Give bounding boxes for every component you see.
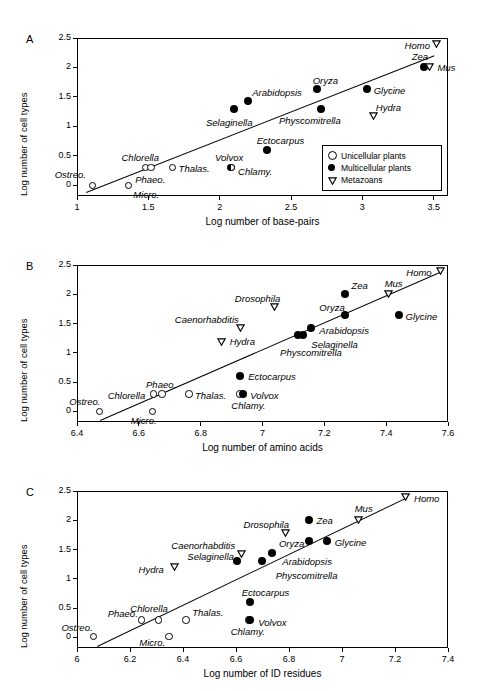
data-point-selaginella (233, 557, 241, 565)
data-point-hydra (217, 338, 226, 346)
x-tick-label: 6.4 (61, 428, 93, 438)
point-label-physcomitrella: Physcomitrella (276, 570, 338, 581)
data-point-oryza (313, 85, 321, 93)
y-axis-label-B: Log number of cell types (18, 318, 29, 422)
x-tickmark (289, 648, 290, 652)
data-point-zea (305, 516, 313, 524)
data-point-volvox (227, 164, 235, 172)
point-label-homo: Homo (405, 40, 430, 51)
x-tick-label: 7 (247, 428, 279, 438)
data-point-oryza (305, 537, 313, 545)
point-label-oryza: Oryza (319, 302, 344, 313)
x-tick-label: 1.5 (132, 202, 164, 212)
y-tickmark (73, 578, 77, 579)
x-tick-label: 6.4 (167, 654, 199, 664)
x-tickmark (77, 196, 78, 200)
point-label-arabidopsis: Arabidopsis (252, 87, 302, 98)
data-point-hydra (369, 112, 378, 120)
y-tickmark (73, 352, 77, 353)
y-tick-label: 1.5 (47, 91, 71, 101)
x-tickmark (200, 422, 201, 426)
x-tickmark (77, 422, 78, 426)
data-point-chlamy (227, 164, 235, 172)
data-point-hydra (170, 563, 179, 571)
point-label-caenorhabditis: Caenorhabditis (171, 540, 235, 551)
data-point-ectocarpus (263, 146, 271, 154)
data-point-caenorhabditis (237, 550, 246, 558)
data-point-thalas (182, 616, 190, 624)
x-tick-label: 2 (204, 202, 236, 212)
point-label-chlorella: Chlorella (121, 152, 159, 163)
x-tickmark (183, 648, 184, 652)
point-label-volvox: Volvox (215, 152, 243, 163)
point-label-ostreo: Ostreo. (55, 169, 86, 180)
data-point-selaginella (299, 331, 307, 339)
x-tick-label: 3 (346, 202, 378, 212)
open-triangle-down-icon (328, 171, 337, 189)
x-tick-label: 6.6 (123, 428, 155, 438)
y-tickmark (73, 185, 77, 186)
data-point-glycine (363, 85, 371, 93)
point-label-ostreo: Ostreo. (61, 622, 92, 633)
data-point-mus (354, 516, 363, 524)
x-tickmark (433, 196, 434, 200)
legend-item-0: Unicellular plants (328, 150, 435, 161)
x-tickmark (219, 196, 220, 200)
point-label-micro: Micro. (139, 637, 165, 648)
data-point-chlorella (142, 164, 150, 172)
y-tick-label: 0.5 (47, 602, 71, 612)
x-tick-label: 6.8 (185, 428, 217, 438)
data-point-physcomitrella (258, 557, 266, 565)
x-tickmark (262, 422, 263, 426)
data-point-selaginella (230, 105, 238, 113)
data-point-thalas (185, 390, 193, 398)
point-label-arabidopsis: Arabidopsis (282, 556, 332, 567)
x-tickmark (148, 196, 149, 200)
data-point-zea (420, 63, 428, 71)
point-label-ostreo: Ostreo. (69, 396, 100, 407)
data-point-chlamy (236, 390, 244, 398)
y-tick-label: 1.5 (47, 544, 71, 554)
y-tickmark (73, 265, 77, 266)
x-tickmark (130, 648, 131, 652)
trend-line-C (97, 497, 407, 647)
point-label-thalas: Thalas. (192, 607, 223, 618)
y-tickmark (73, 126, 77, 127)
point-label-homo: Homo (406, 267, 431, 278)
open-circle-icon (328, 151, 337, 160)
point-label-arabidopsis: Arabidopsis (319, 325, 369, 336)
x-tickmark (342, 648, 343, 652)
data-point-ostreo (96, 408, 104, 416)
x-axis-label-A: Log number of base-pairs (77, 216, 448, 227)
data-point-drosophila (281, 529, 290, 537)
data-point-homo (401, 493, 410, 501)
point-label-ectocarpus: Ectocarpus (242, 587, 290, 598)
x-tickmark (77, 648, 78, 652)
panel-A: A00.511.522.511.522.533.5Log number of c… (0, 0, 479, 691)
y-tick-label: 0 (47, 631, 71, 641)
data-point-micro (125, 182, 133, 190)
x-axis-label-B: Log number of amino acids (77, 442, 448, 453)
plot-area-B (77, 265, 448, 422)
point-label-thalas: Thalas. (195, 390, 226, 401)
point-label-glycine: Glycine (335, 537, 367, 548)
point-label-physcomitrella: Physcomitrella (280, 347, 342, 358)
y-tickmark (73, 491, 77, 492)
x-tick-label: 6.8 (273, 654, 305, 664)
data-point-oryza (341, 311, 349, 319)
data-point-ectocarpus (246, 598, 254, 606)
data-point-homo (436, 267, 445, 275)
data-point-physcomitrella (294, 331, 302, 339)
y-tick-label: 2.5 (47, 259, 71, 269)
data-point-glycine (395, 311, 403, 319)
panel-letter-A: A (26, 33, 33, 45)
data-point-mus (425, 63, 434, 71)
y-tickmark (73, 96, 77, 97)
point-label-glycine: Glycine (406, 311, 438, 322)
trend-line-B (100, 271, 442, 421)
point-label-oryza: Oryza (313, 75, 338, 86)
point-label-volvox: Volvox (250, 390, 278, 401)
point-label-chlorella: Chlorella (130, 603, 168, 614)
data-point-phaeo (158, 390, 166, 398)
filled-circle-icon (328, 164, 335, 171)
